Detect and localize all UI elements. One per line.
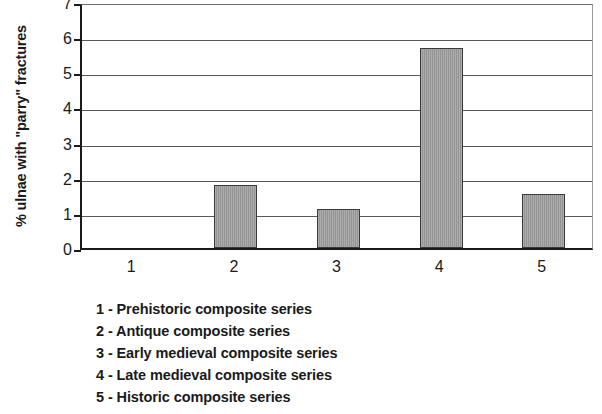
y-tick-label-7: 7 <box>0 0 72 12</box>
y-tick-label-0: 0 <box>0 242 72 258</box>
legend-entry-2: 2 - Antique composite series <box>96 320 536 342</box>
y-tick-label-2: 2 <box>0 172 72 188</box>
y-tick-label-3: 3 <box>0 137 72 153</box>
x-tick-label-1: 1 <box>127 258 136 276</box>
legend: 1 - Prehistoric composite series2 - Anti… <box>96 298 536 408</box>
gridline-6 <box>82 40 592 41</box>
gridline-5 <box>82 75 592 76</box>
bar-3 <box>317 209 360 248</box>
y-axis-tick-labels: 76543210 <box>0 0 72 254</box>
bar-chart-figure: % ulnae with "parry" fractures 76543210 … <box>0 0 602 414</box>
legend-entry-3: 3 - Early medieval composite series <box>96 342 536 364</box>
bar-4 <box>420 48 463 248</box>
y-tick-mark-0 <box>74 250 81 252</box>
x-tick-label-2: 2 <box>229 258 238 276</box>
gridline-2 <box>82 181 592 182</box>
y-tick-label-1: 1 <box>0 207 72 223</box>
legend-entry-4: 4 - Late medieval composite series <box>96 364 536 386</box>
x-tick-label-4: 4 <box>435 258 444 276</box>
legend-entry-1: 1 - Prehistoric composite series <box>96 298 536 320</box>
y-tick-label-4: 4 <box>0 101 72 117</box>
y-tick-label-6: 6 <box>0 31 72 47</box>
plot-area <box>80 4 593 250</box>
y-tick-label-5: 5 <box>0 66 72 82</box>
legend-entry-5: 5 - Historic composite series <box>96 386 536 408</box>
x-tick-label-5: 5 <box>537 258 546 276</box>
bar-2 <box>214 185 257 248</box>
gridline-4 <box>82 110 592 111</box>
bar-5 <box>522 194 565 248</box>
gridline-3 <box>82 146 592 147</box>
x-tick-label-3: 3 <box>332 258 341 276</box>
